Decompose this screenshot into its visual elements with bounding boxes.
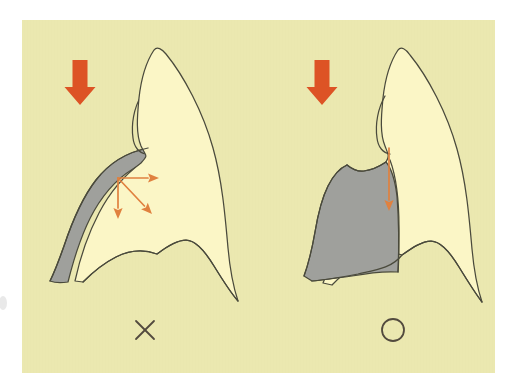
tooth-force-diagram: [0, 0, 507, 390]
figure-root: Occlusal force direction on tooth with c…: [0, 0, 507, 390]
